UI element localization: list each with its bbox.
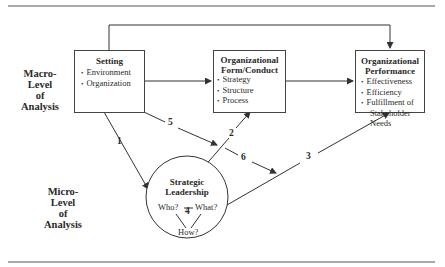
performance-box: Organizational Performance Effectiveness…: [355, 50, 425, 113]
link-4-label: 4: [185, 206, 190, 216]
form-title: Organizational: [214, 55, 285, 65]
arrow-5-label: 5: [168, 117, 173, 127]
macro-line: Analysis: [15, 101, 65, 112]
performance-list: Effectiveness Efficiency Fulfillment of …: [356, 77, 424, 129]
circle-title-line: Strategic: [162, 177, 212, 187]
micro-line: Micro-: [38, 186, 88, 197]
list-item: Organization: [81, 79, 144, 90]
macro-line: Macro-: [15, 68, 65, 79]
what-label: What?: [195, 202, 217, 212]
micro-line: of: [38, 208, 88, 219]
setting-box: Setting Environment Organization: [74, 50, 145, 113]
micro-line: Level: [38, 197, 88, 208]
who-label: Who?: [158, 202, 178, 212]
macro-line: of: [15, 90, 65, 101]
macro-level-label: Macro- Level of Analysis: [15, 68, 65, 112]
list-item: Effectiveness: [361, 77, 424, 88]
arrow-3-label: 3: [306, 151, 311, 161]
form-list: Strategy Structure Process: [214, 75, 285, 107]
list-item: Strategy: [217, 75, 285, 86]
arrow-6-label: 6: [241, 152, 246, 162]
arrow-1-label: 1: [117, 136, 122, 146]
list-item: Process: [217, 96, 285, 107]
arrow-2-label: 2: [229, 128, 234, 138]
performance-title: Organizational: [356, 56, 424, 66]
how-label: How?: [178, 227, 198, 237]
setting-list: Environment Organization: [75, 68, 144, 89]
circle-title: Strategic Leadership: [162, 177, 212, 197]
form-box: Organizational Form/Conduct Strategy Str…: [213, 50, 286, 113]
list-item: Fulfillment of: [361, 98, 424, 109]
performance-title: Performance: [356, 66, 424, 76]
setting-title: Setting: [75, 56, 144, 66]
list-item: Stakeholder Needs: [361, 109, 424, 129]
macro-line: Level: [15, 79, 65, 90]
strategic-leadership-circle: [146, 156, 228, 238]
list-item: Environment: [81, 68, 144, 79]
micro-level-label: Micro- Level of Analysis: [38, 186, 88, 230]
micro-line: Analysis: [38, 219, 88, 230]
circle-title-line: Leadership: [162, 187, 212, 197]
